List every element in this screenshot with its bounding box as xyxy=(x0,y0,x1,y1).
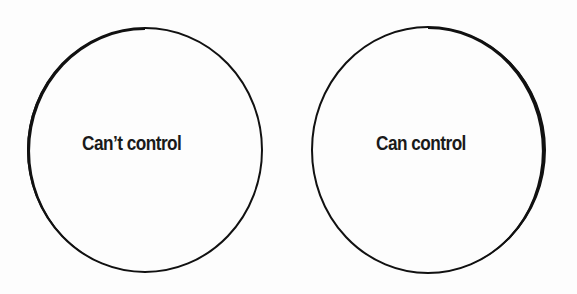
can-control-label: Can control xyxy=(376,133,466,153)
diagram-canvas: Can’t control Can control xyxy=(0,0,577,294)
cant-control-label: Can’t control xyxy=(82,133,181,153)
